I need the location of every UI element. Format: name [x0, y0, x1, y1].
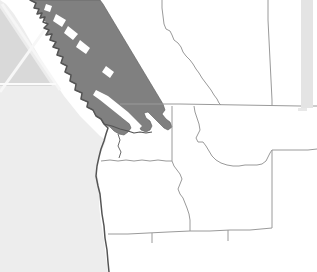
map-canvas[interactable]	[0, 0, 317, 272]
right-edge-bar	[301, 0, 313, 108]
map-container[interactable]: Pacific Northwest Regional Map	[0, 0, 317, 272]
edge-bar-tick	[298, 108, 307, 111]
